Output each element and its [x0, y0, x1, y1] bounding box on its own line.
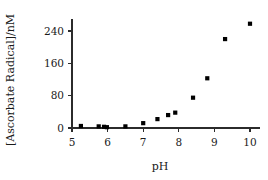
data-point — [155, 117, 159, 121]
axis-tick-marks — [68, 31, 250, 132]
data-point — [79, 124, 83, 128]
data-point — [248, 22, 252, 26]
y-tick-label: 160 — [44, 57, 64, 69]
x-tick-label: 7 — [140, 136, 147, 148]
data-point — [105, 125, 109, 129]
data-point — [205, 76, 209, 80]
x-tick-label: 10 — [243, 136, 256, 148]
chart-figure: 080160240 5678910 pH [Ascorbate Radical]… — [0, 0, 268, 180]
data-point — [191, 96, 195, 100]
x-axis-title: pH — [152, 160, 169, 173]
y-axis-tick-labels: 080160240 — [44, 25, 64, 134]
y-tick-label: 80 — [51, 89, 64, 101]
x-tick-label: 5 — [69, 136, 76, 148]
data-point — [123, 124, 127, 128]
data-point-series — [79, 22, 252, 130]
data-point — [166, 113, 170, 117]
x-tick-label: 6 — [104, 136, 111, 148]
data-point — [223, 37, 227, 41]
axis-lines — [72, 19, 260, 128]
data-point — [97, 124, 101, 128]
data-point — [141, 121, 145, 125]
data-point — [173, 111, 177, 115]
x-axis-tick-labels: 5678910 — [69, 136, 257, 148]
scatter-plot: 080160240 5678910 pH [Ascorbate Radical]… — [0, 0, 268, 180]
y-tick-label: 0 — [57, 122, 64, 134]
y-tick-label: 240 — [44, 25, 64, 37]
y-axis-title: [Ascorbate Radical]/nM — [4, 14, 17, 146]
x-tick-label: 8 — [175, 136, 182, 148]
x-tick-label: 9 — [211, 136, 218, 148]
